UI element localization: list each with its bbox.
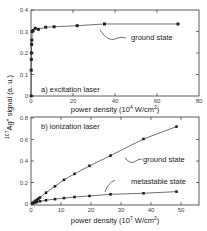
a-xlabel: power density (104 W/cm2) bbox=[71, 104, 160, 114]
b-ytick-3: 0.6 bbox=[20, 137, 29, 143]
b-xtick-5: 50 bbox=[178, 207, 185, 213]
a-xtick-1: 20 bbox=[70, 98, 77, 104]
panel-a: 0 0.1 0.2 0.3 0.4 0 20 40 60 80 ground s… bbox=[20, 7, 203, 114]
y-axis-label: 107Ag+ signal (a. u.) bbox=[4, 75, 14, 139]
data-point bbox=[53, 25, 56, 28]
data-point bbox=[54, 185, 57, 188]
panel-b: 0 0.2 0.4 0.6 0.8 0 10 20 30 40 50 groun… bbox=[20, 115, 199, 225]
data-point bbox=[37, 28, 40, 31]
b-xtick-4: 40 bbox=[148, 207, 155, 213]
b-annotation-ground-state: ground state bbox=[143, 155, 185, 164]
data-point bbox=[30, 52, 33, 55]
a-annotation-arrow bbox=[100, 30, 126, 40]
b-xtick-2: 20 bbox=[88, 207, 95, 213]
data-point bbox=[63, 197, 66, 200]
a-annotation-ground-state: ground state bbox=[131, 33, 173, 42]
data-point bbox=[39, 200, 42, 203]
data-point bbox=[30, 43, 33, 46]
b-xlabel: power density (107 W/cm2) bbox=[71, 215, 160, 225]
b-xtick-3: 30 bbox=[118, 207, 125, 213]
a-ytick-4: 0.4 bbox=[20, 7, 29, 13]
data-point bbox=[30, 39, 33, 42]
data-point bbox=[63, 179, 66, 182]
a-xtick-0: 0 bbox=[29, 98, 33, 104]
b-panel-title: b) ionization laser bbox=[41, 122, 100, 131]
a-ytick-1: 0.1 bbox=[20, 72, 29, 78]
a-ytick-2: 0.2 bbox=[20, 50, 29, 56]
b-ytick-2: 0.4 bbox=[20, 158, 29, 164]
data-point bbox=[54, 198, 57, 201]
data-point bbox=[30, 95, 33, 98]
data-point bbox=[39, 196, 42, 199]
data-point bbox=[45, 199, 48, 202]
data-point bbox=[34, 27, 37, 30]
a-xtick-4: 80 bbox=[196, 98, 203, 104]
b-xtick-1: 10 bbox=[58, 207, 65, 213]
b-annotation-metastable-state: metastable state bbox=[131, 177, 186, 186]
data-point bbox=[73, 196, 76, 199]
data-point bbox=[177, 22, 180, 25]
data-point bbox=[142, 138, 145, 141]
a-panel-title: a) excitation laser bbox=[41, 85, 100, 94]
data-point bbox=[109, 193, 112, 196]
data-point bbox=[30, 58, 33, 61]
a-ytick-0: 0 bbox=[25, 93, 29, 99]
a-xtick-2: 40 bbox=[112, 98, 119, 104]
b-annotation-arrow-ground bbox=[125, 158, 142, 163]
b-xtick-0: 0 bbox=[29, 207, 33, 213]
data-point bbox=[175, 190, 178, 193]
b-ytick-0: 0 bbox=[25, 201, 29, 207]
panel-a-frame bbox=[31, 10, 199, 96]
data-point bbox=[44, 26, 47, 29]
data-point bbox=[88, 165, 91, 168]
b-annotation-arrow-meta bbox=[105, 180, 115, 192]
b-ytick-1: 0.2 bbox=[20, 180, 29, 186]
data-point bbox=[73, 173, 76, 176]
data-point bbox=[76, 24, 79, 27]
data-point bbox=[45, 191, 48, 194]
data-point bbox=[142, 192, 145, 195]
data-point bbox=[103, 22, 106, 25]
b-ytick-4: 0.8 bbox=[20, 115, 29, 121]
data-point bbox=[36, 201, 39, 204]
b-series-metastable-state bbox=[31, 190, 178, 204]
data-point bbox=[175, 125, 178, 128]
figure: 0 0.1 0.2 0.3 0.4 0 20 40 60 80 ground s… bbox=[0, 0, 207, 231]
data-point bbox=[30, 69, 33, 72]
data-point bbox=[88, 195, 91, 198]
data-point bbox=[109, 154, 112, 157]
a-ytick-3: 0.3 bbox=[20, 29, 29, 35]
